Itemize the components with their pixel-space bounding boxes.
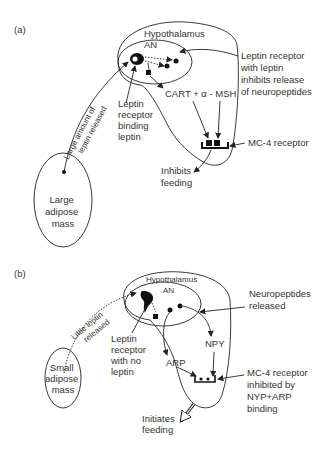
neuron-dot-icon bbox=[165, 64, 170, 69]
leptin-receptor-callout-a: Leptin receptor with leptin inhibits rel… bbox=[240, 50, 312, 97]
arp-label: ARP bbox=[166, 357, 186, 368]
cart-msh-label: CART + α - MSH bbox=[165, 88, 237, 99]
neuron-dot-icon bbox=[174, 59, 179, 64]
inhibits-feeding-label: Inhibits feeding bbox=[161, 165, 194, 188]
mc4-label-a: MC-4 receptor bbox=[248, 137, 309, 148]
neuron-square-icon-a bbox=[146, 70, 151, 75]
initiates-feeding-label: Initiates feeding bbox=[142, 413, 177, 435]
empty-leptin-receptor-icon bbox=[141, 291, 154, 313]
an-label-b: AN bbox=[163, 286, 174, 295]
neuron-dot-icon bbox=[168, 308, 173, 313]
panel-b: (b) Hypothalamus AN Little leptin releas… bbox=[14, 268, 313, 435]
leptin-binding-callout-a: Leptin receptor binding leptin bbox=[118, 98, 156, 142]
hypothalamus-label-a: Hypothalamus bbox=[144, 28, 205, 39]
small-adipose-label: Small adipose mass bbox=[45, 362, 81, 395]
panel-b-label: (b) bbox=[14, 268, 26, 279]
neuropeptides-released-callout: Neuropeptides released bbox=[249, 288, 313, 311]
neuron-dot-icon bbox=[178, 304, 183, 309]
leptin-receptor-no-leptin-callout: Leptin receptor with no leptin bbox=[110, 333, 149, 377]
large-adipose-label: Large adipose mass bbox=[45, 194, 81, 229]
npy-label: NPY bbox=[205, 338, 225, 349]
leptin-release-label-a: Large amount of leptin released bbox=[62, 100, 109, 165]
panel-a: (a) Hypothalamus AN Leptin receptor with… bbox=[14, 22, 312, 247]
mc4-receptor-icon-b bbox=[195, 375, 215, 382]
leptin-release-label-b: Little leptin released bbox=[70, 309, 113, 350]
hypothalamus-label-b: Hypothalamus bbox=[146, 275, 197, 284]
mc4-receptor-icon-a bbox=[202, 140, 228, 148]
panel-a-label: (a) bbox=[14, 24, 26, 35]
an-label-a: AN bbox=[144, 39, 157, 50]
neuron-square-icon-b bbox=[153, 314, 158, 319]
mc4-inhibited-callout: MC-4 receptor inhibited by NYP+ARP bindi… bbox=[247, 367, 310, 414]
leptin-diagram: (a) Hypothalamus AN Leptin receptor with… bbox=[0, 0, 327, 451]
